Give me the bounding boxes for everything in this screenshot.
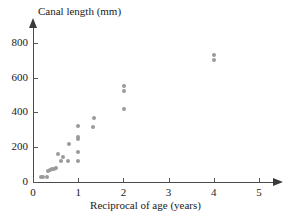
data-point [122,107,126,111]
y-tick-600 [33,78,38,79]
x-tick-5 [259,178,260,183]
data-point [59,159,63,163]
y-axis-title: Canal length (mm) [38,5,121,17]
data-point [66,159,70,163]
data-point [91,125,95,129]
data-point [45,175,49,179]
x-tick-1 [78,178,79,183]
data-point [56,152,60,156]
x-tick-label-2: 2 [113,186,133,198]
x-tick-label-4: 4 [204,186,224,198]
y-tick-0 [33,182,38,183]
x-tick-3 [169,178,170,183]
x-tick-label-3: 3 [159,186,179,198]
data-point [76,159,80,163]
y-tick-label-800: 800 [2,36,28,48]
scatter-plot-figure: Canal length (mm) 012345 0200400600800 R… [0,0,291,217]
data-point [92,116,96,120]
x-tick-2 [123,178,124,183]
data-point [122,89,126,93]
x-tick-label-5: 5 [249,186,269,198]
x-axis-line [33,182,277,183]
x-axis-title: Reciprocal of age (years) [0,199,291,211]
y-tick-label-400: 400 [2,105,28,117]
y-tick-400 [33,112,38,113]
data-point [76,124,80,128]
data-point [122,84,126,88]
data-point [76,150,80,154]
data-point [67,142,71,146]
y-tick-800 [33,43,38,44]
y-tick-200 [33,147,38,148]
x-tick-label-0: 0 [23,186,43,198]
x-tick-label-1: 1 [68,186,88,198]
y-tick-label-600: 600 [2,71,28,83]
x-axis-arrow-icon [273,178,283,186]
y-axis-arrow-icon [29,18,37,28]
data-point [61,155,65,159]
data-point [212,53,216,57]
y-axis-line [33,26,34,183]
y-tick-label-200: 200 [2,140,28,152]
data-point [54,166,58,170]
y-tick-label-0: 0 [2,175,28,187]
x-tick-4 [214,178,215,183]
data-point [212,58,216,62]
